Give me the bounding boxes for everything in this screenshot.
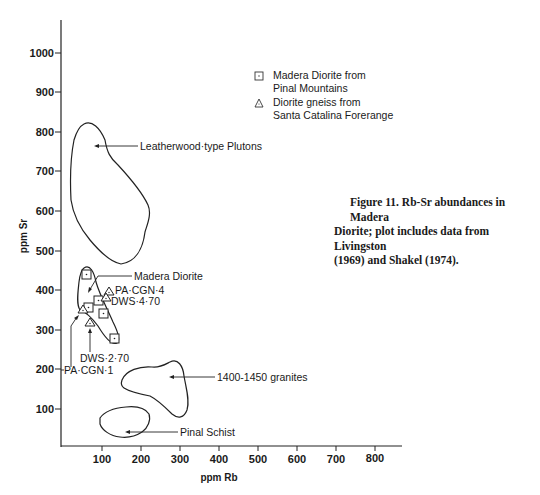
arrowhead-icon <box>94 144 99 148</box>
figure-caption: Figure 11. Rb-Sr abundances in Madera Di… <box>334 195 539 268</box>
y-tick-label: 500 <box>36 245 54 257</box>
pinal-schist-field-outline <box>100 407 150 438</box>
x-tick-labels: 100 200 300 400 500 600 700 800 <box>93 452 384 465</box>
pa-cgn-1-arrow <box>71 317 77 367</box>
label-madera-diorite: Madera Diorite <box>134 270 203 282</box>
x-tick-label: 500 <box>249 453 267 465</box>
x-axis-title: ppm Rb <box>200 472 237 483</box>
label-dws-4-70: DWS·4·70 <box>111 295 160 307</box>
x-tick-label: 100 <box>93 453 111 465</box>
label-pa-cgn-1: PA·CGN·1 <box>64 364 114 376</box>
label-leatherwood: Leatherwood·type Plutons <box>140 140 262 152</box>
y-tick-label: 200 <box>36 363 54 375</box>
caption-line-1: Figure 11. Rb-Sr abundances in Madera <box>334 195 539 224</box>
y-axis-title: ppm Sr <box>18 219 29 254</box>
x-ticks <box>102 446 375 451</box>
legend-triangle-label-line1: Diorite gneiss from <box>273 96 361 108</box>
granites-field-outline <box>121 361 188 417</box>
x-tick-label: 400 <box>210 453 228 465</box>
arrowhead-icon <box>88 287 92 293</box>
y-ticks <box>55 53 61 409</box>
y-tick-label: 1000 <box>30 47 54 59</box>
triangle-marker-dws-2-70 <box>85 318 95 326</box>
caption-line-3: (1969) and Shakel (1974). <box>334 253 539 268</box>
x-tick-label: 700 <box>327 453 345 465</box>
arrowhead-icon <box>88 328 92 333</box>
arrowhead-icon <box>74 315 79 320</box>
label-dws-2-70: DWS·2·70 <box>80 352 129 364</box>
legend-triangle-label-line2: Santa Catalina Forerange <box>273 109 393 121</box>
caption-line-2: Diorite; plot includes data from Livings… <box>334 224 539 253</box>
label-pinal-schist: Pinal Schist <box>180 426 235 438</box>
y-tick-label: 700 <box>36 165 54 177</box>
label-granites: 1400-1450 granites <box>217 371 308 383</box>
arrowhead-icon <box>169 375 174 379</box>
x-tick-label: 300 <box>171 453 189 465</box>
x-tick-label: 600 <box>288 453 306 465</box>
y-tick-label: 600 <box>36 205 54 217</box>
y-tick-label: 800 <box>36 126 54 138</box>
y-tick-label: 100 <box>36 403 54 415</box>
arrowhead-icon <box>125 430 130 434</box>
legend-square-label-line2: Pinal Mountains <box>273 82 348 94</box>
y-tick-label: 400 <box>36 284 54 296</box>
y-tick-labels: 100 200 300 400 500 600 700 800 900 1000 <box>30 47 54 415</box>
legend-triangle-marker-icon <box>255 99 263 107</box>
x-tick-label: 200 <box>132 453 150 465</box>
legend-square-label-line1: Madera Diorite from <box>273 69 366 81</box>
y-tick-label: 900 <box>36 86 54 98</box>
leatherwood-field-outline <box>70 123 149 264</box>
legend: Madera Diorite from Pinal Mountains Dior… <box>255 69 393 121</box>
y-tick-label: 300 <box>36 324 54 336</box>
x-tick-label: 800 <box>366 452 384 464</box>
